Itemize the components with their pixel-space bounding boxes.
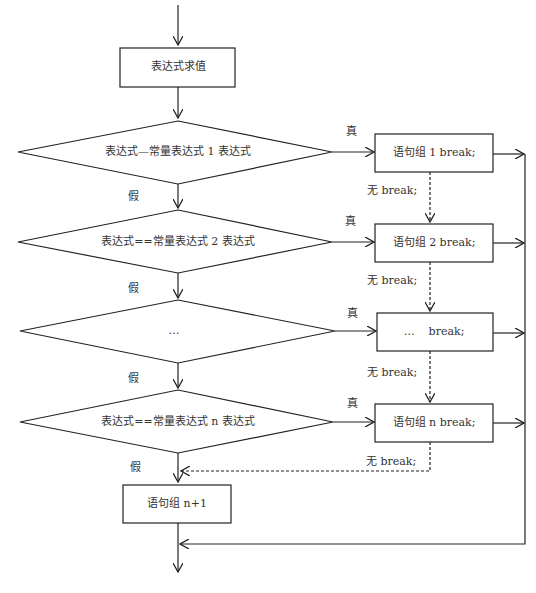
- true-label-2: 真: [345, 215, 356, 229]
- no-break-label-1: 无 break;: [367, 184, 417, 198]
- false-label-2: 假: [128, 282, 139, 296]
- true-label-4: 真: [347, 397, 358, 411]
- false-label-1: 假: [128, 190, 139, 204]
- statement-label-1: 语句组 1 break;: [393, 146, 476, 160]
- statement-label-4: 语句组 n break;: [393, 416, 476, 430]
- condition-label-4: 表达式==常量表达式 n 表达式: [101, 415, 255, 429]
- no-break-label-4: 无 break;: [366, 455, 416, 469]
- condition-label-1: 表达式—常量表达式 1 表达式: [105, 145, 251, 159]
- statement-label-2: 语句组 2 break;: [393, 236, 476, 250]
- true-label-1: 真: [346, 125, 357, 139]
- no-break-label-3: 无 break;: [367, 366, 417, 380]
- condition-label-3: …: [169, 324, 180, 338]
- start-box-label: 表达式求值: [151, 60, 206, 74]
- no-break-label-2: 无 break;: [367, 274, 417, 288]
- condition-label-2: 表达式==常量表达式 2 表达式: [101, 235, 254, 249]
- true-label-3: 真: [347, 307, 358, 321]
- false-label-4: 假: [130, 461, 141, 475]
- flowchart-canvas: [0, 0, 536, 593]
- false-label-3: 假: [128, 372, 139, 386]
- statement-label-3: … break;: [404, 325, 465, 339]
- default-box-label: 语句组 n+1: [147, 497, 207, 511]
